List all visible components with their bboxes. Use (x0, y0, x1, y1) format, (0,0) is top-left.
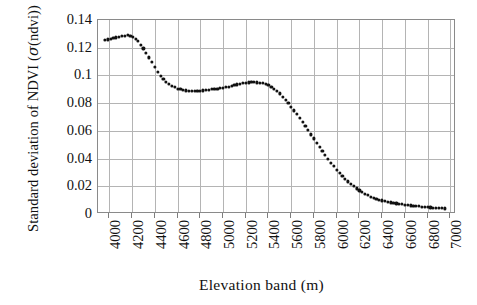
x-tick-label: 5400 (267, 220, 281, 274)
data-point (156, 70, 159, 73)
y-axis-title-prefix: Standard deviation of NDVI ( (25, 56, 41, 232)
data-point (321, 149, 324, 152)
gridline-vertical (428, 20, 429, 212)
data-point (309, 133, 312, 136)
chart-figure: Standard deviation of NDVI (σ(ndvi)) 00.… (0, 0, 477, 305)
data-point (327, 157, 330, 160)
data-point (324, 153, 327, 156)
y-axis-title: Standard deviation of NDVI (σ(ndvi)) (22, 6, 44, 232)
x-tick-label: 6800 (427, 220, 441, 274)
gridline-horizontal (98, 186, 454, 187)
x-tick-mark (245, 213, 246, 218)
x-tick-mark (131, 213, 132, 218)
y-tick-label: 0 (52, 206, 92, 220)
x-tick-mark (336, 213, 337, 218)
gridline-vertical (382, 20, 383, 212)
x-tick-mark (313, 213, 314, 218)
x-axis-title: Elevation band (m) (0, 276, 477, 294)
data-point (318, 145, 321, 148)
data-point (312, 137, 315, 140)
sigma-symbol: σ (25, 46, 41, 56)
gridline-vertical (132, 20, 133, 212)
data-point (136, 39, 139, 42)
x-tick-mark (154, 213, 155, 218)
data-point (153, 66, 156, 69)
x-tick-mark (222, 213, 223, 218)
x-tick-label: 4800 (199, 220, 213, 274)
gridline-vertical (200, 20, 201, 212)
gridline-horizontal (98, 48, 454, 49)
x-tick-mark (199, 213, 200, 218)
x-tick-label: 6600 (404, 220, 418, 274)
x-tick-label: 6400 (381, 220, 395, 274)
y-tick-label: 0.1 (52, 67, 92, 81)
x-tick-label: 7000 (449, 220, 463, 274)
x-tick-label: 6000 (336, 220, 350, 274)
plot-area (97, 19, 455, 213)
x-tick-label: 5200 (245, 220, 259, 274)
gridline-vertical (246, 20, 247, 212)
gridline-vertical (155, 20, 156, 212)
data-point (145, 51, 148, 54)
gridline-horizontal (98, 75, 454, 76)
x-tick-label: 4200 (131, 220, 145, 274)
data-point (315, 141, 318, 144)
gridline-vertical (337, 20, 338, 212)
gridline-vertical (405, 20, 406, 212)
gridline-vertical (359, 20, 360, 212)
x-tick-mark (358, 213, 359, 218)
gridline-horizontal (98, 159, 454, 160)
x-axis-title-text: Elevation band (m) (153, 276, 324, 293)
x-tick-label: 4000 (108, 220, 122, 274)
x-tick-label: 5800 (313, 220, 327, 274)
data-point (150, 61, 153, 64)
gridline-vertical (109, 20, 110, 212)
y-tick-label: 0.14 (52, 12, 92, 26)
x-tick-mark (404, 213, 405, 218)
data-point (290, 105, 293, 108)
data-point (304, 124, 307, 127)
data-point (298, 116, 301, 119)
data-point (139, 43, 142, 46)
gridline-horizontal (98, 103, 454, 104)
gridline-vertical (178, 20, 179, 212)
x-tick-label: 4600 (177, 220, 191, 274)
x-tick-mark (381, 213, 382, 218)
gridline-vertical (314, 20, 315, 212)
x-tick-mark (108, 213, 109, 218)
y-axis-title-suffix: (ndvi)) (25, 5, 41, 46)
data-point (148, 56, 151, 59)
data-point (301, 120, 304, 123)
x-tick-label: 5000 (222, 220, 236, 274)
x-tick-mark (427, 213, 428, 218)
data-point (142, 47, 145, 50)
y-tick-label: 0.06 (52, 123, 92, 137)
x-tick-mark (267, 213, 268, 218)
y-tick-label: 0.02 (52, 178, 92, 192)
gridline-vertical (268, 20, 269, 212)
y-tick-label: 0.12 (52, 40, 92, 54)
gridline-horizontal (98, 131, 454, 132)
gridline-vertical (223, 20, 224, 212)
x-tick-label: 5600 (290, 220, 304, 274)
gridline-vertical (450, 20, 451, 212)
data-point (295, 113, 298, 116)
data-point (292, 109, 295, 112)
y-tick-label: 0.04 (52, 151, 92, 165)
y-tick-label: 0.08 (52, 95, 92, 109)
gridline-vertical (291, 20, 292, 212)
x-tick-mark (177, 213, 178, 218)
x-tick-mark (449, 213, 450, 218)
x-tick-label: 6200 (358, 220, 372, 274)
x-tick-label: 4400 (154, 220, 168, 274)
data-point (443, 207, 446, 210)
x-tick-mark (290, 213, 291, 218)
y-axis-tick-labels: 00.020.040.060.080.10.120.14 (48, 0, 92, 305)
